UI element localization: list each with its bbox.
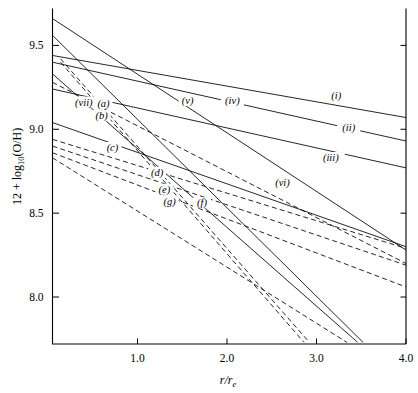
y-axis-title: 12 + log10(O/H) [10, 128, 26, 205]
curve-iv [53, 19, 407, 250]
y-axis-title-rest: (O/H) [10, 128, 24, 157]
x-tick-label-2.0: 2.0 [220, 352, 235, 364]
curve-label-i: (i) [331, 90, 341, 102]
axis-frame [53, 9, 407, 345]
curve-label-iv: (iv) [225, 95, 240, 107]
x-axis-title-sub: e [232, 379, 236, 389]
x-tick-label-1.0: 1.0 [130, 352, 145, 364]
metallicity-gradient-figure: (i)(ii)(iii)(iv)(v)(vi)(vii)(a)(b)(c)(d)… [0, 0, 418, 393]
curve-label-a: (a) [97, 98, 110, 110]
curve-label-c: (c) [107, 142, 119, 154]
y-axis-title-sub: 10 [16, 156, 26, 165]
x-axis-title: r/re [220, 373, 237, 389]
curve-label-g: (g) [164, 196, 177, 208]
curve-g [53, 158, 347, 343]
curve-label-e: (e) [159, 184, 171, 196]
curve-label-vii: (vii) [75, 97, 93, 109]
curve-v [53, 35, 364, 342]
x-tick-group [138, 339, 406, 345]
x-axis-title-text: r/re [220, 373, 237, 389]
y-axis-title-text: 12 + log10(O/H) [10, 128, 26, 205]
y-tick-label-8.0: 8.0 [29, 291, 44, 303]
curve-e [53, 146, 407, 265]
y-tick-label-9.0: 9.0 [29, 123, 44, 135]
curve-label-v: (v) [182, 95, 194, 107]
chart-canvas: (i)(ii)(iii)(iv)(v)(vi)(vii)(a)(b)(c)(d)… [0, 0, 418, 393]
curve-label-ii: (ii) [342, 122, 355, 134]
curve-vi [53, 123, 407, 247]
y-tick-label-8.5: 8.5 [29, 207, 44, 219]
curve-label-b: (b) [96, 110, 109, 122]
curve-label-iii: (iii) [323, 152, 339, 164]
x-tick-label-3.0: 3.0 [309, 352, 324, 364]
curve-label-d: (d) [151, 167, 164, 179]
curve-group [53, 19, 407, 343]
y-tick-group [53, 45, 407, 297]
x-tick-label-4.0: 4.0 [399, 352, 414, 364]
y-tick-label-9.5: 9.5 [29, 39, 44, 51]
curve-label-f: (f) [197, 197, 207, 209]
axes-group [53, 9, 407, 345]
curve-label-vi: (vi) [275, 177, 290, 189]
